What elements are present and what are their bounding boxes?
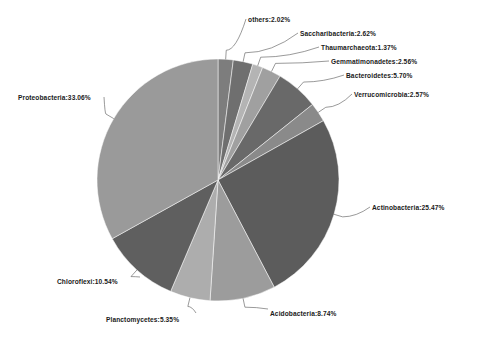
pie-slices-group [97, 59, 339, 301]
figure-caption [0, 333, 478, 341]
leader-line-bacteroidetes [298, 75, 344, 89]
slice-label-gemmatimonadetes: Gemmatimonadetes:2.56% [331, 57, 417, 66]
leader-line-gemmatimonadetes [272, 61, 329, 71]
leader-line-planctomycetes [188, 298, 196, 313]
slice-label-verrucomicrobia: Verrucomicrobia:2.57% [354, 90, 429, 99]
leader-line-others [226, 19, 246, 59]
leader-line-saccharibacteria [243, 33, 298, 62]
slice-label-planctomycetes: Planctomycetes:5.35% [106, 315, 179, 324]
pie-chart-canvas [0, 0, 478, 341]
leader-line-thaumarchaeota [258, 47, 319, 66]
slice-label-others: others:2.02% [248, 15, 290, 24]
leader-line-acidobacteria [243, 298, 268, 309]
slice-label-bacteroidetes: Bacteroidetes:5.70% [346, 71, 412, 80]
slice-label-actinobacteria: Actinobacteria:25.47% [372, 203, 444, 212]
slice-label-acidobacteria: Acidobacteria:8.74% [270, 309, 336, 318]
pie-chart-figure: others:2.02% Saccharibacteria:2.62% Thau… [0, 0, 478, 341]
slice-label-thaumarchaeota: Thaumarchaeota:1.37% [321, 43, 397, 52]
leader-line-proteobacteria [104, 97, 114, 119]
slice-label-saccharibacteria: Saccharibacteria:2.62% [300, 29, 376, 38]
slice-label-chloroflexi: Chloroflexi:10.54% [57, 277, 118, 286]
leader-line-verrucomicrobia [318, 94, 352, 112]
leader-line-actinobacteria [334, 207, 370, 217]
slice-label-proteobacteria: Proteobacteria:33.06% [18, 93, 91, 102]
